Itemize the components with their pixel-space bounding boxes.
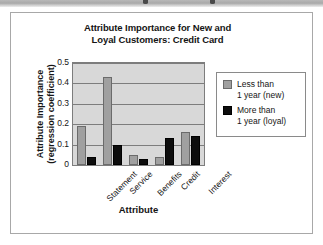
bar-benefits-new xyxy=(129,155,138,165)
bar-statement-loyal xyxy=(87,157,96,165)
chart-legend: Less than 1 year (new) More than 1 year … xyxy=(216,72,306,137)
legend-label-loyal: More than 1 year (loyal) xyxy=(237,105,286,126)
y-axis-title-container: Attribute Importance (regression coeffic… xyxy=(20,45,46,185)
legend-label-new: Less than 1 year (new) xyxy=(237,79,284,100)
bar-service-new xyxy=(103,77,112,165)
bar-service-loyal xyxy=(113,145,122,165)
y-tick-label: 0 xyxy=(47,159,69,169)
bar-credit-loyal xyxy=(165,138,174,165)
y-tick-label: 0.3 xyxy=(47,98,69,108)
bar-credit-new xyxy=(155,157,164,165)
y-tick-label: 0.1 xyxy=(47,139,69,149)
header-mark-right xyxy=(210,0,215,4)
header-mark-left xyxy=(143,0,148,4)
chart-title-line-1: Attribute Importance for New and xyxy=(30,22,285,34)
y-tick-label: 0.4 xyxy=(47,77,69,87)
legend-item-new: Less than 1 year (new) xyxy=(223,79,305,100)
x-axis-tick-labels: StatementServiceBenefitsCreditInterest xyxy=(72,167,205,207)
page-header-strip xyxy=(0,0,323,7)
x-axis-title: Attribute xyxy=(72,204,205,215)
legend-item-loyal: More than 1 year (loyal) xyxy=(223,105,305,126)
bar-benefits-loyal xyxy=(139,159,148,165)
legend-label-new-line-1: Less than xyxy=(237,79,274,89)
bar-statement-new xyxy=(77,126,86,165)
legend-label-loyal-line-2: 1 year (loyal) xyxy=(237,116,286,127)
bar-interest-new xyxy=(181,132,190,165)
legend-label-new-line-2: 1 year (new) xyxy=(237,90,284,101)
chart-title-line-2: Loyal Customers: Credit Card xyxy=(30,34,285,46)
bar-interest-loyal xyxy=(191,136,200,165)
x-tick-label-credit: Credit xyxy=(178,169,201,192)
plot-area xyxy=(72,62,205,166)
chart-title: Attribute Importance for New and Loyal C… xyxy=(30,22,285,46)
figure-page: Attribute Importance for New and Loyal C… xyxy=(0,0,323,245)
legend-swatch-gray-icon xyxy=(223,80,232,89)
bars-layer xyxy=(73,63,204,165)
y-axis-tick-labels: 0.50.40.30.20.10 xyxy=(44,62,69,166)
y-tick-label: 0.5 xyxy=(47,57,69,67)
legend-swatch-black-icon xyxy=(223,106,232,115)
y-tick-label: 0.2 xyxy=(47,118,69,128)
legend-label-loyal-line-1: More than xyxy=(237,105,275,115)
